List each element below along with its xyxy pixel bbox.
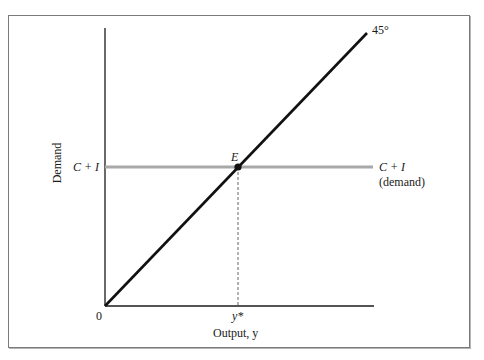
- demand-left-label: C + I: [73, 160, 99, 174]
- origin-label: 0: [96, 309, 102, 323]
- demand-right-sublabel: (demand): [379, 175, 425, 189]
- equilibrium-output-label: y*: [232, 309, 243, 323]
- x-axis-label: Output, y: [213, 326, 258, 340]
- demand-right-label: C + I: [379, 160, 405, 174]
- diagonal-label: 45°: [372, 23, 389, 37]
- equilibrium-label: E: [231, 150, 238, 164]
- equilibrium-point: [234, 163, 241, 170]
- y-axis-label: Demand: [50, 143, 65, 184]
